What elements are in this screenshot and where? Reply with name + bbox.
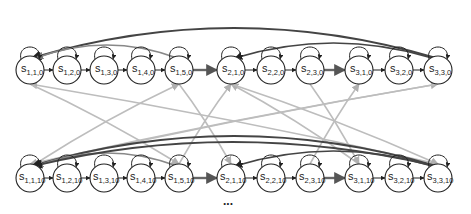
state-label-sub: 2,1,10: [226, 176, 247, 185]
state-node-s330: s3,3,0: [424, 56, 452, 84]
state-node-s130: s1,3,0: [90, 56, 118, 84]
state-label-sub: 1,2,10: [62, 176, 83, 185]
state-label-sub: 2,3,10: [305, 176, 326, 185]
state-label-sub: 3,1,0: [356, 68, 373, 77]
state-label-sub: 3,3,10: [433, 176, 454, 185]
state-label-sub: 2,2,0: [268, 68, 285, 77]
state-node-s220: s2,2,0: [257, 56, 285, 84]
state-label-sub: 1,2,0: [64, 68, 81, 77]
state-node-s310: s3,1,0: [345, 56, 373, 84]
state-label-sub: 1,4,10: [136, 176, 157, 185]
state-node-s3210: s3,2,10: [385, 164, 414, 192]
state-node-s210: s2,1,0: [217, 56, 245, 84]
return-arcs: [32, 28, 436, 166]
state-node-s150: s1,5,0: [165, 56, 193, 84]
state-node-s1410: s1,4,10: [127, 164, 156, 192]
state-node-s120: s1,2,0: [53, 56, 81, 84]
state-label-sub: 2,1,0: [228, 68, 245, 77]
state-node-s1210: s1,2,10: [53, 164, 82, 192]
state-node-s1310: s1,3,10: [90, 164, 119, 192]
state-node-s2210: s2,2,10: [257, 164, 286, 192]
state-label-sub: 1,3,10: [99, 176, 120, 185]
arc-33-to-21-row0: [235, 43, 432, 58]
arc-33-to-11-row1: [32, 136, 436, 166]
state-node-s110: s1,1,0: [16, 56, 44, 84]
state-node-s140: s1,4,0: [127, 56, 155, 84]
state-label-sub: 3,2,10: [394, 176, 415, 185]
ellipsis: ...: [223, 194, 233, 208]
arc-33-to-11-row0: [32, 28, 436, 58]
state-label-sub: 2,2,10: [266, 176, 287, 185]
state-label-sub: 3,1,10: [354, 176, 375, 185]
state-node-s3110: s3,1,10: [345, 164, 374, 192]
state-label-sub: 1,1,10: [25, 176, 46, 185]
state-node-s320: s3,2,0: [385, 56, 413, 84]
state-label-sub: 1,4,0: [138, 68, 155, 77]
state-label-sub: 3,2,0: [396, 68, 413, 77]
state-label-sub: 1,5,10: [174, 176, 195, 185]
state-label-sub: 1,3,0: [101, 68, 118, 77]
state-node-s2110: s2,1,10: [217, 164, 246, 192]
state-node-s1510: s1,5,10: [165, 164, 194, 192]
state-diagram: s1,1,0s1,2,0s1,3,0s1,4,0s1,5,0s2,1,0s2,2…: [0, 0, 471, 214]
state-node-s1110: s1,1,10: [16, 164, 45, 192]
state-label-sub: 2,3,0: [307, 68, 324, 77]
state-label-sub: 3,3,0: [435, 68, 452, 77]
state-node-s2310: s2,3,10: [296, 164, 325, 192]
state-label-sub: 1,1,0: [27, 68, 44, 77]
state-label-sub: 1,5,0: [176, 68, 193, 77]
state-node-s3310: s3,3,10: [424, 164, 453, 192]
cross-edge-8: [231, 84, 438, 164]
state-node-s230: s2,3,0: [296, 56, 324, 84]
nodes: s1,1,0s1,2,0s1,3,0s1,4,0s1,5,0s2,1,0s2,2…: [16, 56, 453, 192]
